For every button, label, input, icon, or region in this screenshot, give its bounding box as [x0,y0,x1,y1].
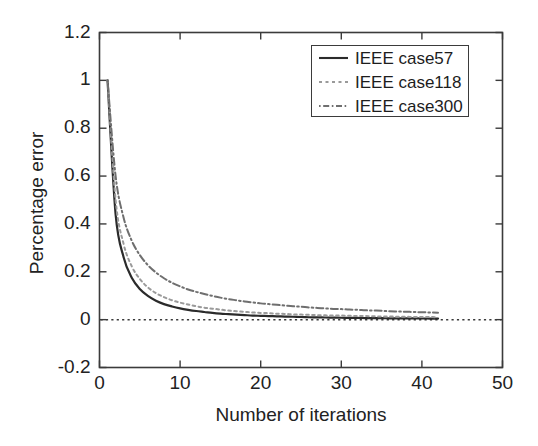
x-axis-label: Number of iterations [99,404,503,426]
x-tick-label: 40 [392,372,452,394]
legend-line-sample-dotted [317,75,350,89]
legend-item-case57: IEEE case57 [312,46,468,70]
legend-line-sample-dashdot [317,99,350,113]
legend-label-case57: IEEE case57 [355,50,453,67]
legend-item-case118: IEEE case118 [312,70,468,94]
legend-line-sample-solid [317,51,350,65]
x-tick-label: 0 [70,372,130,394]
x-tick-label: 50 [473,372,533,394]
legend: IEEE case57 IEEE case118 IEEE case300 [311,45,469,117]
y-tick-label: 0.4 [31,212,91,234]
x-tick-label: 10 [150,372,210,394]
legend-label-case118: IEEE case118 [355,74,461,91]
y-tick-label: 0.2 [31,260,91,282]
y-tick-label: 0.6 [31,164,91,186]
legend-label-case300: IEEE case300 [355,98,463,115]
chart-figure: -0.200.20.40.60.811.201020304050 Percent… [0,0,538,446]
x-tick-label: 30 [311,372,371,394]
y-tick-label: 1.2 [31,21,91,43]
y-tick-label: 0.8 [31,116,91,138]
y-tick-label: 0 [31,308,91,330]
legend-item-case300: IEEE case300 [312,94,468,118]
x-tick-label: 20 [231,372,291,394]
y-tick-label: 1 [31,68,91,90]
